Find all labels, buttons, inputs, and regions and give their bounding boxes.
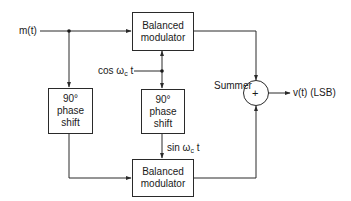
- mid-phase-line2: phase: [149, 106, 176, 118]
- top-modulator-to-summer-line: [193, 31, 256, 80]
- left-phase-line1: 90°: [63, 93, 78, 105]
- top-balanced-modulator-block: Balanced modulator: [132, 12, 194, 51]
- cos-suffix: t: [128, 65, 134, 76]
- input-junction-dot: [67, 29, 71, 33]
- output-label: v(t) (LSB): [293, 87, 336, 99]
- bottom-balanced-modulator-block: Balanced modulator: [132, 159, 194, 197]
- left-phase-shift-block: 90° phase shift: [48, 88, 93, 134]
- cos-carrier-label: cos ωc t: [98, 65, 133, 80]
- mid-phase-shift-block: 90° phase shift: [141, 89, 185, 134]
- left-phase-line2: phase: [57, 105, 84, 117]
- top-modulator-line1: Balanced: [142, 20, 184, 32]
- top-modulator-line2: modulator: [141, 32, 185, 44]
- summer-label: Summer: [214, 80, 252, 92]
- left-phase-to-bottom-modulator-line: [69, 133, 131, 178]
- bottom-modulator-line1: Balanced: [142, 166, 184, 178]
- carrier-junction-dot: [160, 69, 164, 73]
- input-label: m(t): [19, 25, 37, 37]
- bottom-modulator-to-summer-line: [193, 106, 256, 178]
- sin-prefix: sin: [167, 142, 183, 153]
- cos-omega: ω: [116, 65, 124, 76]
- cos-prefix: cos: [98, 65, 116, 76]
- sin-carrier-label: sin ωc t: [167, 142, 199, 157]
- left-phase-line3: shift: [61, 117, 79, 129]
- sin-suffix: t: [194, 142, 200, 153]
- mid-phase-line3: shift: [154, 118, 172, 130]
- bottom-modulator-line2: modulator: [141, 178, 185, 190]
- plus-icon: +: [252, 87, 258, 99]
- mid-phase-line1: 90°: [155, 94, 170, 106]
